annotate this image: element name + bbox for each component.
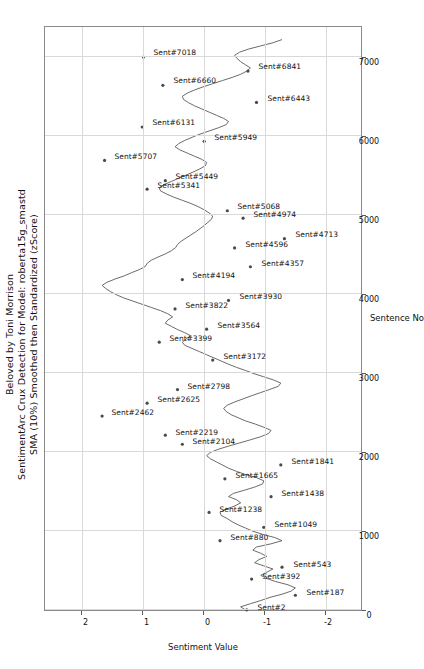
gridline-horizontal — [326, 27, 327, 610]
crux-label: Sent#6660 — [173, 76, 215, 85]
crux-point[interactable] — [207, 511, 210, 514]
y-tick-label: -1 — [257, 618, 271, 627]
y-axis-label: Sentiment Value — [168, 642, 238, 652]
crux-label: Sent#7018 — [154, 48, 196, 57]
x-tick-mark — [362, 294, 366, 295]
y-tick-mark — [264, 611, 265, 615]
crux-label: Sent#2625 — [157, 395, 199, 404]
x-tick-mark — [362, 215, 366, 216]
crux-point[interactable] — [218, 539, 221, 542]
crux-label: Sent#2 — [258, 602, 286, 611]
x-tick-label: 1000 — [359, 532, 379, 541]
y-tick-label: 1 — [135, 618, 149, 627]
crux-point[interactable] — [280, 566, 283, 569]
crux-point[interactable] — [173, 307, 176, 310]
gridline-vertical — [45, 135, 361, 136]
crux-point[interactable] — [226, 209, 229, 212]
crux-label: Sent#2462 — [112, 408, 154, 417]
crux-label: Sent#880 — [231, 533, 269, 542]
crux-point[interactable] — [101, 414, 104, 417]
x-tick-mark — [362, 136, 366, 137]
crux-point[interactable] — [249, 265, 252, 268]
crux-point[interactable] — [246, 69, 249, 72]
crux-point[interactable] — [242, 217, 245, 220]
crux-point[interactable] — [294, 594, 297, 597]
crux-label: Sent#6841 — [259, 62, 301, 71]
crux-point[interactable] — [233, 246, 236, 249]
gridline-vertical — [45, 214, 361, 215]
x-tick-label: 5000 — [359, 216, 379, 225]
gridline-horizontal — [204, 27, 205, 610]
crux-point[interactable] — [161, 84, 164, 87]
chart-title-line2: SentimentArc Crux Detection for Model: r… — [16, 0, 28, 669]
crux-label: Sent#4357 — [261, 258, 303, 267]
crux-point[interactable] — [255, 101, 258, 104]
crux-label: Sent#5707 — [114, 151, 156, 160]
crux-label: Sent#1665 — [236, 471, 278, 480]
crux-label: Sent#4713 — [295, 230, 337, 239]
y-tick-label: -2 — [318, 618, 332, 627]
crux-label: Sent#187 — [306, 588, 344, 597]
crux-label: Sent#3172 — [223, 352, 265, 361]
crux-point[interactable] — [181, 443, 184, 446]
crux-label: Sent#4596 — [245, 239, 287, 248]
crux-label: Sent#543 — [293, 560, 331, 569]
y-tick-label: 2 — [74, 618, 88, 627]
x-tick-mark — [362, 452, 366, 453]
crux-point[interactable] — [181, 278, 184, 281]
crux-label: Sent#6443 — [267, 93, 309, 102]
crux-label: Sent#1049 — [275, 520, 317, 529]
gridline-vertical — [45, 609, 361, 610]
gridline-vertical — [45, 530, 361, 531]
x-tick-mark — [362, 610, 366, 611]
crux-point[interactable] — [176, 388, 179, 391]
x-tick-mark — [362, 531, 366, 532]
gridline-horizontal — [82, 27, 83, 610]
gridline-horizontal — [265, 27, 266, 610]
crux-point[interactable] — [146, 188, 149, 191]
y-tick-mark — [203, 611, 204, 615]
crux-point[interactable] — [205, 328, 208, 331]
gridline-vertical — [45, 293, 361, 294]
crux-point[interactable] — [211, 359, 214, 362]
y-tick-label: 0 — [196, 618, 210, 627]
gridline-vertical — [45, 56, 361, 57]
crux-label: Sent#6131 — [152, 118, 194, 127]
crux-label: Sent#5449 — [176, 172, 218, 181]
gridline-vertical — [45, 372, 361, 373]
crux-label: Sent#1238 — [220, 505, 262, 514]
gridline-vertical — [45, 451, 361, 452]
crux-point[interactable] — [146, 402, 149, 405]
x-tick-mark — [362, 373, 366, 374]
x-tick-label: 7000 — [359, 58, 379, 67]
crux-point[interactable] — [279, 463, 282, 466]
crux-label: Sent#2219 — [176, 427, 218, 436]
crux-point[interactable] — [250, 578, 253, 581]
y-tick-mark — [325, 611, 326, 615]
crux-point[interactable] — [103, 159, 106, 162]
x-axis-label: Sentence No — [370, 314, 424, 324]
crux-point[interactable] — [269, 495, 272, 498]
chart-title-line3: SMA (10%) Smoothed then Standardized (zS… — [28, 0, 40, 669]
x-tick-label: 3000 — [359, 374, 379, 383]
sentiment-line-path — [102, 40, 295, 610]
x-tick-label: 6000 — [359, 137, 379, 146]
x-tick-mark — [362, 57, 366, 58]
crux-label: Sent#5068 — [238, 202, 280, 211]
crux-label: Sent#392 — [262, 572, 300, 581]
crux-label: Sent#2798 — [188, 381, 230, 390]
chart-title-line1: Beloved by Toni Morrison — [4, 0, 16, 669]
crux-label: Sent#2104 — [193, 436, 235, 445]
crux-label: Sent#5949 — [215, 132, 257, 141]
x-tick-label: 4000 — [359, 295, 379, 304]
y-tick-mark — [142, 611, 143, 615]
crux-label: Sent#3822 — [185, 300, 227, 309]
x-tick-label: 2000 — [359, 453, 379, 462]
crux-point[interactable] — [158, 341, 161, 344]
crux-label: Sent#4974 — [254, 209, 296, 218]
crux-point[interactable] — [164, 434, 167, 437]
crux-label: Sent#3564 — [217, 321, 259, 330]
crux-point[interactable] — [223, 477, 226, 480]
chart-title: Beloved by Toni Morrison SentimentArc Cr… — [4, 0, 40, 669]
crux-label: Sent#1841 — [292, 457, 334, 466]
